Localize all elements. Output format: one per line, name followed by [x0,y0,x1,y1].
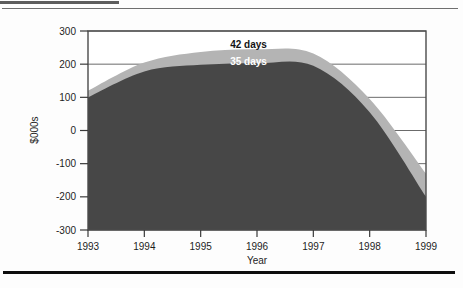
y-tick-label: 300 [59,26,76,37]
chart-svg: 3002001000-100-200-300 19931994199519961… [0,0,463,288]
x-tick-label: 1997 [302,241,325,252]
page-canvas: 3002001000-100-200-300 19931994199519961… [0,0,463,288]
x-tick-label: 1994 [133,241,156,252]
x-tick-label: 1998 [359,241,382,252]
x-axis-title: Year [247,255,268,266]
y-tick-label: 200 [59,59,76,70]
y-tick-label: -200 [56,191,76,202]
x-tick-label: 1999 [415,241,438,252]
x-tick-label: 1995 [190,241,213,252]
x-axis-ticks: 1993199419951996199719981999 [77,230,438,252]
y-axis-title: $000s [29,116,40,143]
series-annotation-35-days: 35 days [230,56,267,67]
series-annotation-42-days: 42 days [230,39,267,50]
y-tick-label: -300 [56,225,76,236]
y-tick-label: 100 [59,92,76,103]
x-tick-label: 1996 [246,241,269,252]
horizontal-rule-thick [3,271,455,274]
x-tick-label: 1993 [77,241,100,252]
y-axis-ticks: 3002001000-100-200-300 [56,26,88,236]
area-chart: 3002001000-100-200-300 19931994199519961… [0,0,463,288]
y-tick-label: -100 [56,158,76,169]
y-tick-label: 0 [70,125,76,136]
